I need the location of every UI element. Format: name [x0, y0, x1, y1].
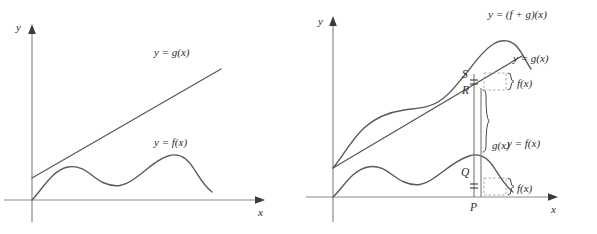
- right-x-axis-label: x: [550, 203, 556, 215]
- brace-upper-f: [508, 73, 514, 90]
- right-label-sum: y = (f + g)(x): [487, 8, 547, 21]
- left-curve-f: [32, 155, 212, 200]
- right-y-axis: [329, 16, 337, 222]
- dashed-box-upper-f: [484, 73, 506, 90]
- brace-lower-f-label: f(x): [517, 182, 533, 195]
- brace-g: [483, 90, 489, 152]
- figure-svg: y x y = g(x) y = f(x) y x: [0, 0, 597, 234]
- right-label-g: y = g(x): [512, 52, 549, 65]
- right-panel: y x: [306, 8, 558, 222]
- brace-upper-f-label: f(x): [517, 77, 533, 90]
- point-label-P: P: [469, 201, 477, 213]
- left-x-axis: [4, 196, 265, 204]
- left-x-axis-label: x: [257, 206, 263, 218]
- right-curve-f: [333, 155, 513, 197]
- point-label-S: S: [462, 68, 468, 80]
- left-label-f: y = f(x): [153, 136, 187, 149]
- left-panel: y x y = g(x) y = f(x): [4, 21, 265, 222]
- point-label-Q: Q: [461, 166, 470, 178]
- function-addition-figure: y x y = g(x) y = f(x) y x: [0, 0, 597, 234]
- right-label-f: y = f(x): [506, 137, 540, 150]
- left-label-g: y = g(x): [153, 46, 190, 59]
- right-y-axis-label: y: [317, 15, 323, 27]
- right-x-axis: [306, 193, 558, 201]
- left-y-axis-label: y: [15, 21, 21, 33]
- point-label-R: R: [461, 84, 469, 96]
- left-curve-g: [32, 69, 221, 178]
- left-y-axis: [28, 24, 36, 222]
